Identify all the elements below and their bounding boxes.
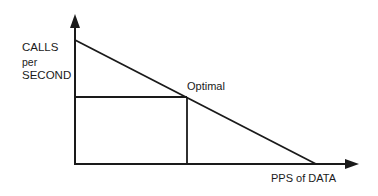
y-axis-label-line-3: SECOND <box>22 69 71 82</box>
y-axis-label-line-2: per <box>22 56 37 69</box>
x-axis-label: PPS of DATA <box>271 172 336 185</box>
y-axis-label-line-1: CALLS <box>22 41 58 54</box>
optimal-label: Optimal <box>187 80 225 93</box>
diagram-canvas <box>0 0 378 196</box>
x-axis-arrow-icon <box>345 159 359 169</box>
tradeoff-line <box>75 40 316 164</box>
y-axis-arrow-icon <box>70 14 80 28</box>
